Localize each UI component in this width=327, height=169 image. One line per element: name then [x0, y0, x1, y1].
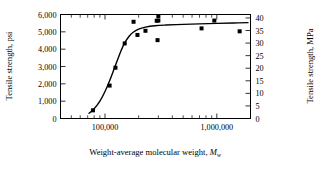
y-left-tick-label: 6,000: [38, 11, 56, 20]
y-left-tick-label: 3,000: [38, 63, 56, 72]
chart-figure: 100,0001,000,000 01,0002,0003,0004,0005,…: [0, 0, 327, 169]
data-point-marker: [156, 38, 160, 42]
data-point-marker: [91, 108, 95, 112]
y-right-tick-label: 10: [256, 89, 264, 98]
data-point-marker: [143, 29, 147, 33]
data-point-marker: [108, 84, 112, 88]
y-left-tick-label: 5,000: [38, 28, 56, 37]
y-right-tick-label: 5: [256, 102, 260, 111]
y-right-tick-label: 35: [256, 27, 264, 36]
y-left-tick-label: 4,000: [38, 45, 56, 54]
y-right-tick-label: 20: [256, 64, 264, 73]
y-axis-ticks-right: [246, 18, 251, 119]
y-left-tick-label: 0: [52, 115, 56, 124]
x-tick-label: 100,000: [92, 123, 119, 132]
data-point-marker: [113, 66, 117, 70]
y-axis-left-title: Tensile strength, psi: [4, 31, 14, 100]
y-right-tick-label: 15: [256, 77, 264, 86]
data-point-marker: [156, 14, 160, 18]
y-axis-right-tick-labels: 0510152025303540: [256, 14, 264, 124]
y-right-tick-label: 0: [256, 115, 260, 124]
x-axis-tick-labels: 100,0001,000,000: [92, 123, 234, 132]
y-right-tick-label: 25: [256, 52, 264, 61]
y-axis-right-title: Tensile strength, MPa: [305, 28, 315, 103]
y-axis-ticks-left: [61, 15, 66, 119]
data-point-markers: [91, 14, 242, 112]
x-axis-title: Weight-average molecular weight, Mw: [89, 147, 221, 158]
tensile-strength-vs-molecular-weight-chart: 100,0001,000,000 01,0002,0003,0004,0005,…: [0, 0, 327, 169]
data-point-marker: [212, 19, 216, 23]
data-point-marker: [156, 19, 160, 23]
data-point-marker: [123, 41, 127, 45]
x-axis-title-subscript: w: [217, 152, 221, 158]
data-point-marker: [135, 33, 139, 37]
x-axis-ticks-bottom: [61, 114, 251, 119]
x-axis-title-main: Weight-average molecular weight,: [89, 147, 210, 157]
x-tick-label: 1,000,000: [200, 123, 233, 132]
data-point-marker: [200, 26, 204, 30]
plot-frame: [61, 15, 251, 119]
y-axis-left-tick-labels: 01,0002,0003,0004,0005,0006,000: [38, 11, 56, 124]
y-left-tick-label: 1,000: [38, 97, 56, 106]
y-left-tick-label: 2,000: [38, 80, 56, 89]
data-point-marker: [238, 29, 242, 33]
data-point-marker: [132, 20, 136, 24]
fitted-sigmoid-curve: [89, 23, 248, 114]
y-right-tick-label: 40: [256, 14, 264, 23]
y-right-tick-label: 30: [256, 39, 264, 48]
